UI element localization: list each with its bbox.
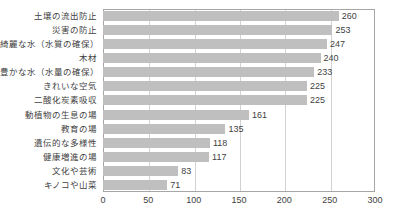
x-tick-label: 300 (367, 194, 382, 206)
bar-row[interactable]: 135 (103, 122, 375, 136)
bar-value-label: 118 (210, 136, 227, 150)
bar[interactable] (103, 25, 332, 35)
bar-row[interactable]: 71 (103, 178, 375, 192)
bar-row[interactable]: 118 (103, 136, 375, 150)
category-label: キノコや山菜 (0, 178, 100, 192)
category-label: 綺麗な水（水質の確保） (0, 37, 100, 51)
x-tick-label: 50 (143, 194, 153, 206)
category-label: 木材 (0, 51, 100, 65)
bar[interactable] (103, 67, 314, 77)
bar-value-label: 260 (339, 9, 357, 23)
bar-row[interactable]: 247 (103, 37, 375, 51)
category-label: 遺伝的な多様性 (0, 136, 100, 150)
category-axis-labels: 土壌の流出防止災害の防止綺麗な水（水質の確保）木材豊かな水（水量の確保）きれいな… (0, 9, 100, 192)
bar-value-label: 135 (225, 122, 243, 136)
bar-value-label: 117 (209, 150, 226, 164)
x-tick-label: 200 (277, 194, 292, 206)
bar-value-label: 233 (314, 65, 332, 79)
bar-value-label: 253 (332, 23, 350, 37)
bar[interactable] (103, 11, 339, 21)
bar-row[interactable]: 117 (103, 150, 375, 164)
category-label: 文化や芸術 (0, 164, 100, 178)
bar-row[interactable]: 260 (103, 9, 375, 23)
bar-value-label: 225 (307, 79, 325, 93)
bar[interactable] (103, 180, 167, 190)
category-label: 豊かな水（水量の確保） (0, 65, 100, 79)
bar-row[interactable]: 233 (103, 65, 375, 79)
bar-value-label: 83 (178, 164, 191, 178)
bar[interactable] (103, 110, 249, 120)
category-label: 健康増進の場 (0, 150, 100, 164)
bar-row[interactable]: 240 (103, 51, 375, 65)
bar-row[interactable]: 83 (103, 164, 375, 178)
x-tick-label: 0 (100, 194, 105, 206)
bar-row[interactable]: 253 (103, 23, 375, 37)
bars-and-value-labels: 2602532472402332252251611351181178371 (103, 9, 375, 192)
category-label: きれいな空気 (0, 79, 100, 93)
category-label: 二酸化炭素吸収 (0, 93, 100, 107)
x-tick-label: 250 (322, 194, 337, 206)
category-label: 災害の防止 (0, 23, 100, 37)
bar-row[interactable]: 161 (103, 108, 375, 122)
bar-value-label: 240 (321, 51, 339, 65)
category-label: 動植物の生息の場 (0, 108, 100, 122)
x-tick-label: 100 (186, 194, 201, 206)
bar-value-label: 161 (249, 108, 267, 122)
bar[interactable] (103, 53, 321, 63)
bar[interactable] (103, 81, 307, 91)
bar-row[interactable]: 225 (103, 93, 375, 107)
category-label: 土壌の流出防止 (0, 9, 100, 23)
value-axis-labels: 050100150200250300 (0, 194, 395, 208)
category-label: 教育の場 (0, 122, 100, 136)
bar-chart: 土壌の流出防止災害の防止綺麗な水（水質の確保）木材豊かな水（水量の確保）きれいな… (0, 0, 395, 215)
bar-row[interactable]: 225 (103, 79, 375, 93)
bar[interactable] (103, 152, 209, 162)
bar[interactable] (103, 39, 327, 49)
bar-value-label: 247 (327, 37, 345, 51)
x-tick-label: 150 (231, 194, 246, 206)
bar[interactable] (103, 138, 210, 148)
bar[interactable] (103, 124, 225, 134)
bar[interactable] (103, 95, 307, 105)
bar-value-label: 71 (167, 178, 180, 192)
bar[interactable] (103, 166, 178, 176)
bar-value-label: 225 (307, 93, 325, 107)
